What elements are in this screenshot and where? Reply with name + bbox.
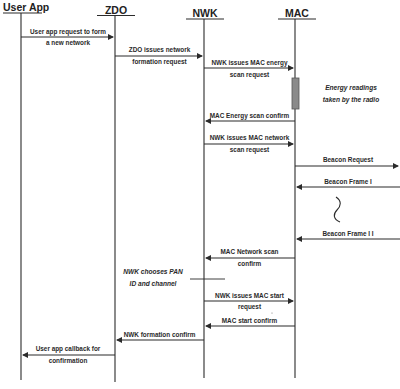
message-label-beacon-frame-2: Beacon Frame I I [300, 228, 396, 240]
actor-label-user-app: User App [3, 1, 43, 13]
message-label-nwk-start-request-line2: request [204, 301, 295, 313]
message-label-user-callback-line2: confirmation [21, 355, 115, 367]
note-energy-readings-line1: Energy readings [306, 82, 396, 94]
squiggle-gap-icon [334, 197, 340, 222]
message-label-mac-start-confirm: MAC start confirm [204, 315, 295, 327]
message-label-zdo-formation-line1: ZDO issues network [115, 44, 204, 56]
message-label-nwk-formation-confirm: NWK formation confirm [115, 329, 204, 341]
message-label-zdo-formation-line2: formation request [115, 56, 204, 68]
actor-label-nwk: NWK [185, 7, 225, 19]
message-label-beacon-frame-1: Beacon Frame I [300, 176, 396, 188]
actor-label-zdo: ZDO [96, 4, 136, 16]
message-label-nwk-network-scan-line1: NWK issues MAC network [204, 132, 295, 144]
message-label-mac-network-confirm-line2: confirm [204, 258, 295, 270]
message-label-user-request-line2: a new network [21, 37, 115, 49]
message-label-nwk-energy-scan-line1: NWK issues MAC energy [204, 57, 295, 69]
message-label-mac-network-confirm-line1: MAC Network scan [204, 246, 295, 258]
activation-bar-mac [292, 78, 299, 109]
message-label-user-callback-line1: User app callback for [21, 343, 115, 355]
actor-label-mac: MAC [277, 7, 317, 19]
note-pan-id-line1: NWK chooses PAN [115, 266, 191, 278]
note-energy-readings-line2: taken by the radio [306, 94, 396, 106]
message-label-nwk-energy-scan-line2: scan request [204, 69, 295, 81]
note-pan-id-line2: ID and channel [115, 278, 191, 290]
message-label-nwk-network-scan-line2: scan request [204, 144, 295, 156]
message-label-beacon-request: Beacon Request [300, 154, 396, 166]
message-label-mac-energy-confirm: MAC Energy scan confirm [204, 110, 295, 122]
